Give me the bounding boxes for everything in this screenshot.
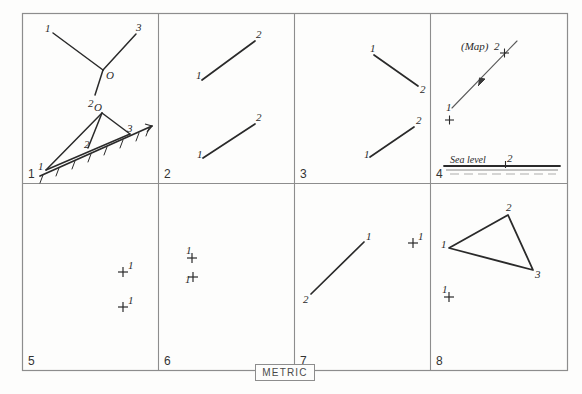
figure-three-ray-vertex: 1 3 2 O <box>45 21 142 109</box>
sea-level-caption: Sea level <box>450 154 486 165</box>
panel-7-figures: 2 1 1 <box>303 230 424 305</box>
metric-label: METRIC <box>262 367 308 378</box>
point-label-3: 3 <box>135 21 142 33</box>
figure-segment-ascending: 1 2 <box>364 114 422 160</box>
panel-number-8: 8 <box>436 354 443 368</box>
point-label-1: 1 <box>366 230 372 242</box>
figure-sea-level: Sea level 2 <box>444 152 560 174</box>
figure-cross-point: 1 <box>408 230 424 248</box>
figure-cross-point-upper: 1 <box>118 259 134 277</box>
figure-map-line: (Map) 2 1 <box>445 40 517 125</box>
point-label-1: 1 <box>364 148 370 160</box>
point-label-2: 2 <box>256 111 262 123</box>
point-label-1: 1 <box>197 148 203 160</box>
point-label-1: 1 <box>128 259 134 271</box>
figure-hatched-ground-station: O 1 2 3 <box>38 101 152 183</box>
figure-cross-point-lower: 1 <box>118 294 134 312</box>
vertex-label-o: O <box>106 69 114 81</box>
panel-4-figures: (Map) 2 1 Sea level 2 <box>444 40 560 174</box>
point-label-2: 2 <box>420 83 426 95</box>
figure-segment-upper: 1 2 <box>196 28 262 81</box>
point-label-1: 1 <box>370 42 376 54</box>
point-label-2: 2 <box>507 152 513 164</box>
ground-label-2: 2 <box>84 138 90 150</box>
ground-label-1: 1 <box>38 160 44 172</box>
point-label-2: 2 <box>256 28 262 40</box>
figure-segment-lower: 1 2 <box>197 111 262 160</box>
point-label-1: 1 <box>441 238 447 250</box>
point-label-1: 1 <box>196 69 202 81</box>
panel-number-4: 4 <box>436 167 443 181</box>
panel-8-figures: 1 2 3 1 <box>441 201 541 302</box>
figure-segment: 2 1 <box>303 230 372 305</box>
point-label-1: 1 <box>185 273 191 285</box>
station-label-o: O <box>94 101 102 113</box>
point-label-2: 2 <box>303 293 309 305</box>
cross-mark-1 <box>445 116 454 125</box>
point-label-2: 2 <box>494 40 500 52</box>
metric-label-box: METRIC <box>255 364 315 381</box>
map-caption: (Map) <box>461 40 489 53</box>
drawing-sheet: 1 2 3 4 5 6 7 8 1 3 2 O <box>0 0 582 394</box>
figure-cross-point: 1 <box>442 283 454 302</box>
point-label-1: 1 <box>186 244 192 256</box>
panel-number-5: 5 <box>28 354 35 368</box>
point-label-3: 3 <box>534 268 541 280</box>
panel-number-2: 2 <box>164 167 171 181</box>
figure-segment-descending: 1 2 <box>370 42 426 95</box>
panel-number-1: 1 <box>28 167 35 181</box>
figure-cross-point-upper: 1 <box>186 244 197 263</box>
ground-label-3: 3 <box>126 122 133 134</box>
panel-number-6: 6 <box>164 354 171 368</box>
figure-cross-point-lower: 1 <box>185 272 198 285</box>
point-label-1: 1 <box>442 283 448 295</box>
point-label-1: 1 <box>45 22 51 34</box>
point-label-2: 2 <box>416 114 422 126</box>
point-label-1: 1 <box>128 294 134 306</box>
panel-2-figures: 1 2 1 2 <box>196 28 262 160</box>
point-label-2: 2 <box>506 201 512 213</box>
panel-6-figures: 1 1 <box>185 244 198 285</box>
point-label-1: 1 <box>446 101 452 113</box>
point-label-1: 1 <box>418 230 424 242</box>
panel-grid-svg: 1 2 3 4 5 6 7 8 1 3 2 O <box>0 0 582 394</box>
panel-1-figures: 1 3 2 O <box>38 21 152 183</box>
figure-triangle: 1 2 3 <box>441 201 541 280</box>
panel-number-3: 3 <box>300 167 307 181</box>
grid-frame <box>23 14 568 371</box>
panel-5-figures: 1 1 <box>118 259 134 312</box>
panel-3-figures: 1 2 1 2 <box>364 42 426 160</box>
